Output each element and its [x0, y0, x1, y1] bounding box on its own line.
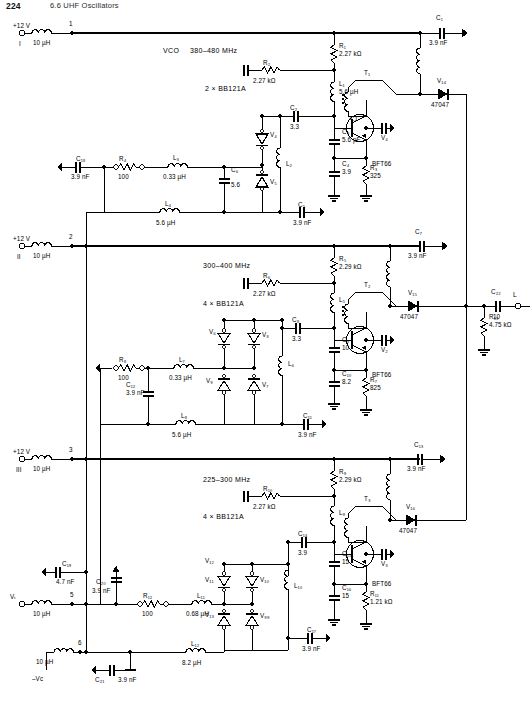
R9-group	[331, 459, 337, 498]
node-6-label: 6	[78, 639, 82, 646]
V5-ref: V₅	[270, 178, 277, 185]
V8-ref: V₈	[262, 331, 269, 338]
C4-ref: C₄	[342, 160, 349, 167]
V14-type: 47047	[431, 101, 449, 108]
node-3-label: 3	[69, 446, 73, 453]
L12-value: 8.2 µH	[182, 659, 201, 666]
C12-value: 3.9 nF	[126, 389, 144, 396]
C3-ref: C₃	[342, 128, 349, 135]
stage-2-band: 300–400 MHz	[203, 262, 250, 269]
Q2-ref: V₂	[381, 346, 388, 353]
V13-ref: V₁₃	[205, 611, 214, 618]
C20-value: 3.9 nF	[92, 587, 110, 594]
supply-1-terminal: I	[19, 40, 21, 47]
C10-value: 8.2	[342, 378, 351, 385]
C20-ref: C₂₀	[96, 578, 106, 585]
supply-2-label: +12 V	[13, 235, 30, 242]
R11-ref: R₁₁	[370, 590, 379, 597]
supply-2-terminal: II	[17, 253, 21, 260]
Q1-group	[334, 100, 374, 158]
L3-value: 0.33 µH	[163, 173, 186, 180]
L5-group	[331, 283, 336, 330]
L10-group	[285, 542, 290, 640]
V15-type: 47047	[400, 313, 418, 320]
C21-ref: C₂₁	[95, 676, 104, 683]
C16-value: 15	[342, 592, 349, 599]
V7-ref: V₇	[262, 381, 269, 388]
C11-ref: C₁₁	[303, 412, 312, 419]
L8-value: 5.6 µH	[172, 431, 191, 438]
C22-value: 10	[493, 313, 500, 320]
C18-value: 3.9 nF	[71, 173, 89, 180]
supply-5-label: –Vᴄ	[32, 675, 43, 682]
supply-1-group	[19, 30, 73, 36]
Q3-ref: V₃	[381, 560, 388, 567]
C4-value: 3.9	[342, 168, 351, 175]
C11-group	[282, 419, 327, 430]
V15-group	[390, 301, 468, 312]
C21-group	[91, 652, 136, 676]
node-5-label: 5	[70, 591, 74, 598]
stage-1-name: VCO	[163, 47, 179, 54]
supply-4-group	[19, 459, 117, 652]
V14-ref: V₁₄	[437, 77, 446, 84]
node-1-label: 1	[69, 20, 73, 27]
L2-group	[277, 116, 280, 212]
stage-1-varactor-note: 2 × BB121A	[205, 85, 246, 92]
output-port-label: L	[513, 291, 517, 298]
R8-ref: R₈	[119, 356, 126, 363]
R4-ref: R₄	[119, 155, 126, 162]
R1-value: 2.27 kΩ	[339, 50, 362, 57]
supply-3-group	[19, 456, 73, 462]
C16-ref: C₁₆	[342, 584, 352, 591]
supply-1-choke-value: 10 µH	[33, 39, 50, 46]
C14-ref: C₁₄	[298, 530, 308, 537]
V10-ref: V₁₀	[260, 576, 269, 583]
Q3-type: BFT66	[372, 580, 391, 587]
R6-ref: R₆	[263, 272, 270, 279]
L7-ref: L₇	[179, 356, 185, 363]
C8-ref: C₈	[292, 316, 299, 323]
L6-ref: L₆	[288, 360, 294, 367]
L7-value: 0.33 µH	[169, 374, 192, 381]
stage-1-band: 380–480 MHz	[190, 47, 237, 54]
R2-ref: R₂	[263, 59, 270, 66]
schematic-page: 224 6.6 UHF Oscillators	[0, 0, 530, 703]
stage2-tuning-row	[95, 364, 224, 373]
R4-value: 100	[118, 173, 129, 180]
L9-group	[331, 496, 336, 544]
V16-ref: V₁₆	[406, 503, 415, 510]
C19-group	[41, 567, 88, 578]
R6-group	[244, 278, 334, 289]
R10-ref: R₁₀	[263, 485, 273, 492]
C3-value: 5.6 pF	[342, 136, 360, 143]
stage3-tuning-row	[116, 601, 224, 607]
C5-value: 3.9 nF	[293, 219, 311, 226]
L1-group	[331, 70, 336, 118]
C2-group	[278, 111, 334, 122]
C2-ref: C₂	[290, 104, 297, 111]
supply-1-label: +12 V	[13, 22, 30, 29]
C8-value: 3.3	[292, 335, 301, 342]
C20-group	[111, 566, 122, 604]
supply-3-choke-value: 10 µH	[33, 465, 50, 472]
V16-type: 47047	[399, 527, 417, 534]
supply-3-label: +12 V	[13, 448, 30, 455]
V16-group	[390, 320, 466, 526]
L4-value: 5.6 µH	[156, 219, 175, 226]
C22-ref: C₂₂	[491, 288, 501, 295]
C19-value: 4.7 nF	[56, 578, 74, 585]
L12-ref: L₁₂	[191, 640, 199, 647]
C17-ref: C₁₇	[307, 626, 316, 633]
V6-ref: V₆	[209, 328, 216, 335]
L4-group	[104, 167, 280, 212]
C17-value: 3.9 nF	[302, 645, 320, 652]
R1-group	[331, 33, 337, 72]
V11-ref: V₁₁	[205, 576, 214, 583]
C1-ref: C₁	[436, 14, 443, 21]
C7-group	[390, 241, 448, 252]
V12-ref: V₁₂	[205, 557, 214, 564]
R9-ref: R₉	[339, 468, 346, 475]
supply-4-choke-value: 10 µH	[33, 610, 50, 617]
L1-value: 5.6 µH	[339, 88, 358, 95]
